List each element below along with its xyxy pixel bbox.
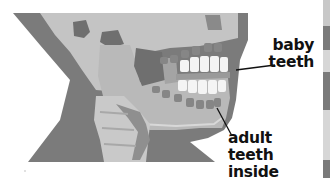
label-baby-line1: baby [262,37,314,54]
label-baby-line2: teeth [262,54,314,71]
edge-band [323,160,330,178]
label-adult-line2: inside gums [228,164,316,178]
cavity-3 [205,15,222,30]
edge-band [323,26,330,50]
edge-band [323,110,330,160]
edge-band [323,72,330,110]
speck [24,170,26,172]
edge-band [323,50,330,72]
edge-strip [323,0,330,178]
label-baby-teeth: baby teeth [262,37,314,71]
label-adult-line1: adult teeth [228,130,316,164]
label-adult-teeth: adult teeth inside gums [228,130,316,178]
edge-band [323,0,330,26]
